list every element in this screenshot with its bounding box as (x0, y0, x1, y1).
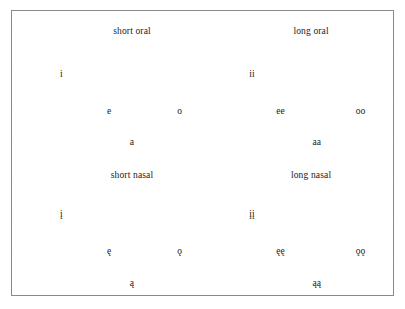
quadrant-label-short-nasal: short nasal (111, 171, 154, 181)
vowel-chart-canvas: short oralieoalong oraliieeooaashort nas… (12, 11, 393, 295)
vowel-symbol: aa (312, 138, 321, 148)
vowel-symbol: ę (107, 248, 111, 258)
vowel-symbol: ǫǫ (356, 248, 366, 258)
vowel-symbol: i (60, 70, 63, 80)
vowel-symbol: ǫ (177, 248, 182, 258)
vowel-symbol: į (60, 211, 63, 221)
vowel-symbol: e (107, 107, 111, 117)
vowel-symbol: ee (276, 107, 285, 117)
vowel-symbol: ii (249, 70, 255, 80)
vowel-symbol: oo (356, 107, 366, 117)
vowel-symbol: įį (249, 211, 255, 221)
vowel-symbol: a (130, 138, 134, 148)
quadrant-label-short-oral: short oral (113, 28, 151, 38)
figure-frame: short oralieoalong oraliieeooaashort nas… (11, 10, 394, 296)
vowel-symbol: ęę (276, 248, 285, 258)
quadrant-label-long-nasal: long nasal (291, 171, 331, 181)
vowel-symbol: ąą (312, 279, 321, 289)
vowel-symbol: o (177, 107, 182, 117)
quadrant-label-long-oral: long oral (293, 28, 328, 38)
vowel-symbol: ą (130, 279, 134, 289)
